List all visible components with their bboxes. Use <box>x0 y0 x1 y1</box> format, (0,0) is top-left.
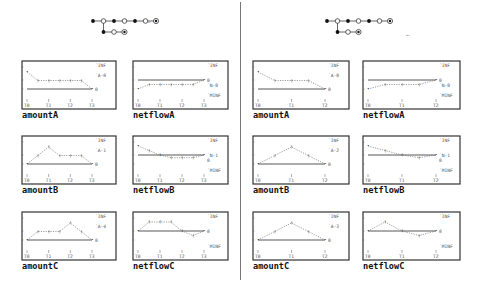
y-label: ˙A-3 <box>328 224 339 229</box>
x-tick-label: T2 <box>433 103 439 108</box>
x-tick-label: T1 <box>399 178 405 183</box>
open-node-icon <box>377 19 382 24</box>
x-tick-label: T2 <box>433 254 439 259</box>
y-label: 0 <box>439 158 442 163</box>
chart-title: amountC <box>22 261 58 271</box>
chart-netflowB: •†††††•˙INF˙N-10˙MINFT0T1T2T3netflowB <box>132 136 228 195</box>
svg-text:†: † <box>48 229 51 234</box>
y-label: ˙MINF <box>439 93 453 98</box>
filled-node-icon <box>346 19 350 23</box>
filled-node-icon <box>367 19 371 23</box>
chart-title: netflowA <box>133 110 175 120</box>
y-label: ˙INF <box>328 63 339 68</box>
chart-frame <box>22 61 116 109</box>
x-tick-label: T1 <box>46 178 52 183</box>
x-tick-label: T1 <box>289 103 295 108</box>
chart-title: amountA <box>253 110 290 120</box>
svg-text:•: • <box>257 69 259 74</box>
x-tick-label: T0 <box>255 103 261 108</box>
svg-text:•: • <box>91 86 93 91</box>
svg-text:†: † <box>384 82 387 87</box>
y-label: 0 <box>439 78 442 83</box>
y-label: ˙MINF <box>439 244 453 249</box>
chart-netflowC: •†††††•˙INF0˙MINFT0T1T2T3netflowC <box>132 212 228 271</box>
y-label: ˙INF <box>95 214 106 219</box>
chart-title: netflowC <box>363 261 404 271</box>
svg-text:•: • <box>324 237 326 242</box>
x-tick-label: T3 <box>201 178 207 183</box>
filled-node-icon <box>336 30 340 34</box>
x-tick-label: T1 <box>157 103 163 108</box>
svg-text:•: • <box>435 228 437 233</box>
svg-text:†: † <box>274 229 277 234</box>
y-label: ˙INF <box>328 138 339 143</box>
x-tick-label: T3 <box>89 103 95 108</box>
y-label: ˙MINF <box>207 93 221 98</box>
chart-title: netflowB <box>133 185 174 195</box>
x-tick-label: T0 <box>365 103 371 108</box>
y-label: ˙INF <box>207 214 218 219</box>
chart-title: amountA <box>22 110 59 120</box>
y-label: ˙A-2 <box>328 148 339 153</box>
svg-text:•: • <box>435 77 437 82</box>
x-tick-label: T2 <box>322 103 328 108</box>
svg-text:•: • <box>26 69 28 74</box>
svg-text:•: • <box>91 237 93 242</box>
right-panel-canvas: ←•†††•˙INF˙A-00T0T1T2amountA•†††•˙INF0˙N… <box>241 0 478 292</box>
svg-text:†: † <box>170 82 173 87</box>
open-node-icon <box>356 19 361 24</box>
svg-text:•: • <box>91 161 93 166</box>
chart-frame <box>253 136 349 184</box>
svg-text:†: † <box>37 153 40 158</box>
x-tick-label: T1 <box>46 254 52 259</box>
svg-text:†: † <box>192 233 195 238</box>
svg-text:•: • <box>26 161 28 166</box>
right-panel: ←•†††•˙INF˙A-00T0T1T2amountA•†††•˙INF0˙N… <box>241 0 478 292</box>
x-tick-label: T2 <box>322 254 328 259</box>
y-label: 0 <box>95 87 98 92</box>
svg-text:†: † <box>80 78 83 83</box>
x-tick-label: T2 <box>322 178 328 183</box>
svg-text:•: • <box>367 143 369 148</box>
svg-text:†: † <box>59 153 62 158</box>
chart-title: amountC <box>253 261 289 271</box>
x-tick-label: T3 <box>201 103 207 108</box>
y-label: ˙MINF <box>207 244 221 249</box>
x-tick-label: T0 <box>135 254 141 259</box>
chart-frame <box>363 212 460 260</box>
x-tick-label: T2 <box>179 103 185 108</box>
y-label: ˙INF <box>439 63 450 68</box>
y-label: ˙A-0 <box>95 73 106 78</box>
x-tick-label: T1 <box>157 254 163 259</box>
x-tick-label: T0 <box>365 178 371 183</box>
chart-title: netflowB <box>363 185 404 195</box>
x-tick-label: T0 <box>135 178 141 183</box>
svg-text:†: † <box>384 219 387 224</box>
x-tick-label: T2 <box>179 254 185 259</box>
x-tick-label: T1 <box>289 178 295 183</box>
x-tick-label: T1 <box>289 254 295 259</box>
x-tick-label: T0 <box>135 103 141 108</box>
svg-text:†: † <box>148 82 151 87</box>
x-tick-label: T2 <box>433 178 439 183</box>
filled-node-icon <box>91 19 95 23</box>
y-label: ˙INF <box>95 63 106 68</box>
y-label: ˙A-1 <box>95 148 106 153</box>
svg-text:•: • <box>367 228 369 233</box>
open-node-icon <box>346 30 351 35</box>
x-tick-label: T3 <box>89 254 95 259</box>
chart-frame <box>253 212 349 260</box>
x-tick-label: T1 <box>157 178 163 183</box>
svg-text:†: † <box>291 220 294 225</box>
filled-node-icon <box>102 30 106 34</box>
svg-text:•: • <box>324 161 326 166</box>
y-label: 0 <box>207 158 210 163</box>
svg-text:•: • <box>257 237 259 242</box>
y-label: 0 <box>328 238 331 243</box>
y-label: 0 <box>207 229 210 234</box>
y-label: 0 <box>95 238 98 243</box>
svg-text:•: • <box>137 143 139 148</box>
chart-title: amountB <box>253 185 289 195</box>
chart-frame <box>22 136 116 184</box>
svg-text:•: • <box>203 77 205 82</box>
